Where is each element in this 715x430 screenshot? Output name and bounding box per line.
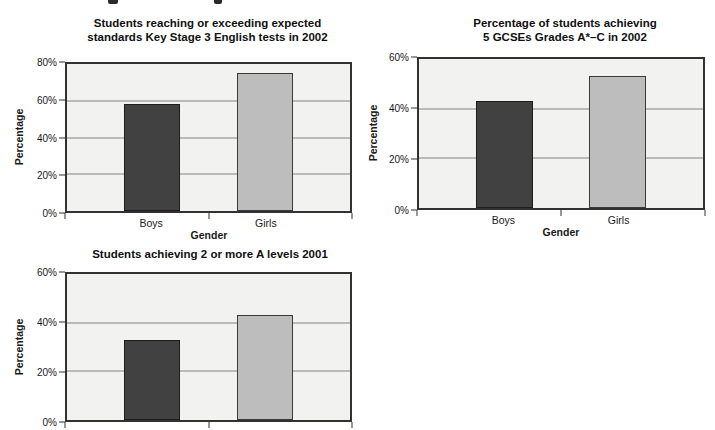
y-tick-label: 0%	[43, 208, 57, 219]
x-tick-mark	[352, 422, 353, 428]
x-axis-tick-marks	[65, 422, 352, 428]
gridline	[67, 137, 350, 138]
y-tick-label: 0%	[43, 417, 57, 428]
bar-boys	[124, 340, 181, 420]
y-tick-label: 40%	[37, 317, 57, 328]
category-label-girls: Girls	[255, 217, 277, 229]
y-tick-label: 20%	[389, 154, 409, 165]
y-tick-label: 60%	[37, 267, 57, 278]
chart-title: Students reaching or exceeding expecteds…	[40, 16, 375, 44]
category-label-girls: Girls	[608, 214, 630, 226]
y-axis-tick-labels: 0%20%40%60%80%	[14, 62, 57, 213]
x-tick-mark	[65, 422, 66, 428]
bar-boys	[124, 104, 181, 211]
y-tick-label: 60%	[389, 52, 409, 63]
gridline	[67, 100, 350, 101]
plot-area	[65, 62, 352, 213]
category-label-boys: Boys	[139, 217, 162, 229]
y-tick-label: 60%	[37, 94, 57, 105]
category-label-boys: Boys	[492, 214, 515, 226]
bar-boys	[476, 101, 533, 208]
bar-girls	[589, 76, 646, 208]
x-tick-mark	[208, 422, 209, 428]
chart-gcse-2002: Percentage of students achieving5 GCSEs …	[360, 0, 715, 240]
chart-title: Students achieving 2 or more A levels 20…	[40, 247, 380, 261]
y-axis-tick-labels: 0%20%40%60%	[14, 272, 57, 422]
chart-title-line: 5 GCSEs Grades A*–C in 2002	[420, 30, 710, 44]
y-tick-label: 40%	[37, 132, 57, 143]
y-tick-label: 80%	[37, 57, 57, 68]
chart-title-line: Students reaching or exceeding expected	[40, 16, 375, 30]
y-axis-tick-labels: 0%20%40%60%	[366, 57, 409, 210]
chart-a-levels-2001: Students achieving 2 or more A levels 20…	[0, 240, 360, 430]
y-tick-label: 20%	[37, 367, 57, 378]
plot-area	[417, 57, 705, 210]
chart-title-line: standards Key Stage 3 English tests in 2…	[40, 30, 375, 44]
gridline	[67, 322, 350, 323]
plot-area	[65, 272, 352, 422]
gridline	[67, 371, 350, 372]
chart-ks3-english-2002: Students reaching or exceeding expecteds…	[0, 0, 360, 245]
x-axis-title: Gender	[543, 226, 580, 238]
chart-title-line: Percentage of students achieving	[420, 16, 710, 30]
chart-title-line: Students achieving 2 or more A levels 20…	[40, 247, 380, 261]
bar-girls	[237, 315, 294, 420]
gridline	[419, 158, 703, 159]
y-tick-label: 40%	[389, 103, 409, 114]
gridline	[419, 108, 703, 109]
chart-title: Percentage of students achieving5 GCSEs …	[420, 16, 710, 44]
bar-girls	[237, 73, 294, 211]
y-tick-label: 20%	[37, 170, 57, 181]
y-tick-label: 0%	[395, 205, 409, 216]
gridline	[67, 174, 350, 175]
figure-canvas: Students reaching or exceeding expecteds…	[0, 0, 715, 430]
